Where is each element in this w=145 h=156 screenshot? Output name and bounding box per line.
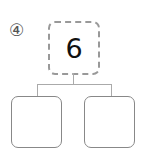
problem-number: ④ (9, 22, 24, 39)
right-answer-box[interactable] (84, 96, 135, 148)
left-answer-box[interactable] (11, 96, 62, 148)
connector-horizontal (37, 84, 112, 85)
root-box: 6 (48, 21, 100, 75)
connector-right (111, 84, 112, 96)
root-value: 6 (65, 33, 82, 64)
connector-left (37, 84, 38, 96)
connector-vertical (73, 73, 74, 84)
